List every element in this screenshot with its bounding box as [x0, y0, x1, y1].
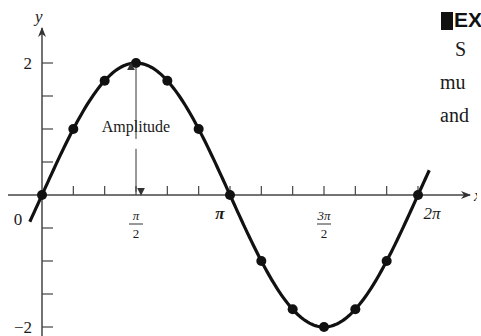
x-tick-label: 2π [423, 204, 441, 223]
data-point [288, 304, 298, 314]
y-tick-label: 2 [24, 54, 33, 73]
x-tick-label-numerator: π [133, 208, 140, 223]
x-tick-label-numerator: 3π [316, 208, 331, 223]
data-point [382, 256, 392, 266]
x-tick-label-denominator: 2 [321, 226, 328, 241]
y-axis-label: y [33, 7, 43, 26]
data-point [350, 304, 360, 314]
amplitude-label: Amplitude [102, 118, 170, 136]
data-point [37, 190, 47, 200]
side-text-line2: mu [440, 71, 466, 94]
data-point [162, 76, 172, 86]
side-text-line1: S [455, 38, 466, 61]
data-point [319, 322, 329, 332]
x-axis-label: x [473, 186, 477, 205]
data-point [413, 190, 423, 200]
data-point [194, 124, 204, 134]
header-text: EX [454, 10, 481, 32]
side-text-line3: and [440, 104, 469, 127]
x-tick-label: 0 [14, 210, 23, 229]
header-block [441, 12, 453, 30]
x-tick-label: π [215, 204, 225, 223]
y-tick-label: −2 [14, 318, 32, 336]
data-point [256, 256, 266, 266]
example-header: EX [441, 10, 481, 32]
data-point [68, 124, 78, 134]
data-point [225, 190, 235, 200]
data-point [100, 76, 110, 86]
x-tick-label-denominator: 2 [133, 226, 140, 241]
